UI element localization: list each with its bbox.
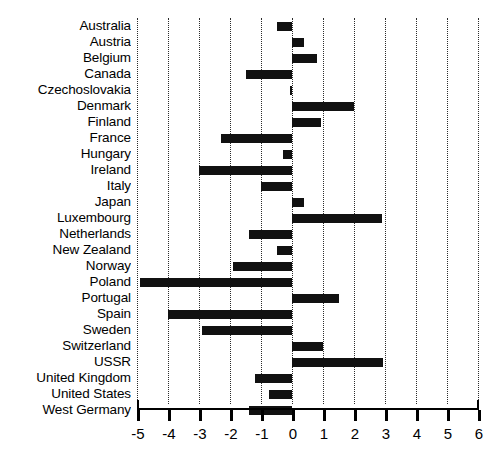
category-label: New Zealand	[0, 242, 131, 258]
x-axis-line	[137, 408, 479, 410]
category-label: Denmark	[0, 98, 131, 114]
bar	[292, 214, 382, 223]
bar-row	[137, 402, 478, 418]
bar-row	[137, 322, 478, 338]
bar	[255, 374, 292, 383]
category-label: Czechoslovakia	[0, 82, 131, 98]
bar	[249, 230, 292, 239]
x-axis-tick-label: 1	[309, 425, 339, 442]
bar	[168, 310, 292, 319]
bar	[221, 134, 292, 143]
bar-row	[137, 386, 478, 402]
x-axis-tick-label: 5	[433, 425, 463, 442]
gridline	[478, 18, 480, 404]
bar	[269, 390, 292, 399]
x-axis-tick	[478, 410, 481, 421]
x-axis-tick	[230, 410, 233, 421]
bar	[261, 182, 292, 191]
bar-row	[137, 306, 478, 322]
bar-row	[137, 66, 478, 82]
bar-row	[137, 226, 478, 242]
x-axis-tick-label: -3	[185, 425, 215, 442]
bar-row	[137, 130, 478, 146]
plot-area	[137, 18, 478, 404]
category-label: Norway	[0, 258, 131, 274]
category-label: Austria	[0, 34, 131, 50]
x-axis-tick	[168, 410, 171, 421]
category-label: Canada	[0, 66, 131, 82]
x-axis-tick	[199, 410, 202, 421]
bar	[292, 102, 354, 111]
x-axis-tick-label: -2	[216, 425, 246, 442]
bar-row	[137, 18, 478, 34]
category-label: Switzerland	[0, 338, 131, 354]
x-axis-tick	[292, 410, 295, 421]
bar	[292, 294, 339, 303]
bar	[292, 54, 317, 63]
category-label: Poland	[0, 274, 131, 290]
bar-row	[137, 146, 478, 162]
category-label: France	[0, 130, 131, 146]
category-label: Japan	[0, 194, 131, 210]
category-axis-labels: AustraliaAustriaBelgiumCanadaCzechoslova…	[0, 18, 131, 418]
bar-row	[137, 178, 478, 194]
bar-series	[137, 18, 478, 402]
category-label: USSR	[0, 354, 131, 370]
bar-row	[137, 98, 478, 114]
category-label: United Kingdom	[0, 370, 131, 386]
x-axis-tick-label: 2	[340, 425, 370, 442]
category-label: Finland	[0, 114, 131, 130]
bar-row	[137, 50, 478, 66]
bar	[277, 22, 293, 31]
x-axis-tick-label: 4	[402, 425, 432, 442]
bar	[246, 70, 293, 79]
bar-row	[137, 274, 478, 290]
bar-row	[137, 338, 478, 354]
category-label: Ireland	[0, 162, 131, 178]
x-axis-tick-label: -1	[247, 425, 277, 442]
bar	[277, 246, 293, 255]
bar-chart: AustraliaAustriaBelgiumCanadaCzechoslova…	[0, 0, 489, 470]
x-axis-tick-label: -4	[154, 425, 184, 442]
bar-row	[137, 162, 478, 178]
category-label: Spain	[0, 306, 131, 322]
bar-row	[137, 354, 478, 370]
bar-row	[137, 194, 478, 210]
bar-row	[137, 210, 478, 226]
x-axis-tick-label: -5	[123, 425, 153, 442]
bar-row	[137, 258, 478, 274]
category-label: Hungary	[0, 146, 131, 162]
bar	[292, 198, 304, 207]
category-label: Sweden	[0, 322, 131, 338]
bar-row	[137, 370, 478, 386]
category-label: Italy	[0, 178, 131, 194]
bar	[140, 278, 292, 287]
bar	[233, 262, 292, 271]
x-axis-tick-label: 0	[278, 425, 308, 442]
category-label: United States	[0, 386, 131, 402]
bar	[292, 358, 383, 367]
bar-row	[137, 290, 478, 306]
x-axis-tick	[385, 410, 388, 421]
category-label: West Germany	[0, 402, 131, 418]
x-axis-tick	[137, 410, 140, 421]
bar	[290, 86, 292, 95]
x-axis-tick	[354, 410, 357, 421]
x-axis-left-cap	[137, 400, 139, 408]
x-axis-tick-label: 6	[464, 425, 489, 442]
chart-title	[0, 0, 489, 14]
bar-row	[137, 242, 478, 258]
x-axis-tick	[323, 410, 326, 421]
category-label: Portugal	[0, 290, 131, 306]
category-label: Netherlands	[0, 226, 131, 242]
category-label: Australia	[0, 18, 131, 34]
bar	[292, 342, 323, 351]
bar	[199, 166, 292, 175]
bar	[292, 38, 304, 47]
bar-row	[137, 82, 478, 98]
x-axis-right-cap	[477, 400, 479, 408]
x-axis-tick	[447, 410, 450, 421]
x-axis-tick	[416, 410, 419, 421]
bar	[283, 150, 292, 159]
bar	[292, 118, 321, 127]
